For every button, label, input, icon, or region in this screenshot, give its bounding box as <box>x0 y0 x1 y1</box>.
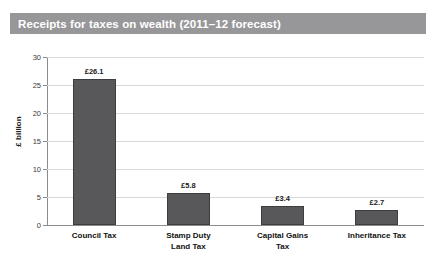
y-axis-tick <box>43 113 47 114</box>
x-axis-category-label: Capital GainsTax <box>257 230 308 252</box>
bar-value-label: £5.8 <box>181 181 196 190</box>
y-axis-tick-label: 5 <box>21 193 41 202</box>
y-axis-tick-labels: 051015202530 <box>16 34 41 273</box>
y-axis-tick <box>43 197 47 198</box>
y-axis-tick <box>43 85 47 86</box>
bar[interactable] <box>167 193 210 225</box>
y-axis-tick <box>43 225 47 226</box>
bar-value-label: £3.4 <box>275 194 290 203</box>
x-axis-category-label: Inheritance Tax <box>348 230 406 241</box>
x-axis-category-label: Stamp DutyLand Tax <box>166 230 210 252</box>
bar-value-label: £26.1 <box>85 67 104 76</box>
x-axis-category-label: Council Tax <box>72 230 117 241</box>
y-axis-tick-label: 0 <box>21 221 41 230</box>
chart-title-banner: Receipts for taxes on wealth (2011–12 fo… <box>10 13 426 34</box>
x-axis-line <box>47 225 424 226</box>
plot-area: £26.1£5.8£3.4£2.7 <box>47 57 424 225</box>
y-axis-tick-label: 30 <box>21 53 41 62</box>
bar[interactable] <box>261 206 304 225</box>
y-axis-tick-label: 15 <box>21 137 41 146</box>
page-title: Receipts for taxes on wealth (2011–12 fo… <box>10 18 281 30</box>
bar-chart: £ billion 051015202530 £26.1£5.8£3.4£2.7… <box>0 34 437 273</box>
bar-value-label: £2.7 <box>370 198 385 207</box>
y-axis-tick <box>43 141 47 142</box>
bar[interactable] <box>73 79 116 225</box>
y-axis-tick <box>43 169 47 170</box>
y-axis-tick-label: 10 <box>21 165 41 174</box>
gridline <box>47 57 424 58</box>
bar[interactable] <box>355 210 398 225</box>
y-axis-tick-label: 20 <box>21 109 41 118</box>
y-axis-tick-label: 25 <box>21 81 41 90</box>
y-axis-tick <box>43 57 47 58</box>
